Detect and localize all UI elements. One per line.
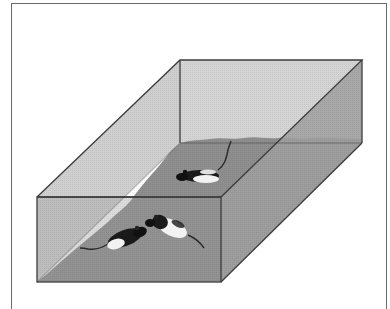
box-diagram (0, 0, 390, 309)
